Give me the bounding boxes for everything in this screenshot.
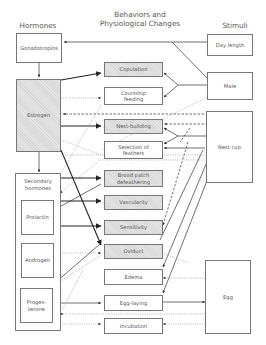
- node-male: Male: [207, 72, 253, 100]
- node-incubation: Incubation: [104, 318, 163, 334]
- node-progesterone: Proges-terone: [20, 288, 53, 323]
- node-estrogen: Estrogen: [16, 79, 61, 152]
- node-prolactin: Prolactin: [21, 200, 54, 235]
- node-courtship-feeding: Courtship feeding: [104, 87, 163, 105]
- node-nest-cup: Nest cup: [206, 111, 253, 183]
- secondary-hormones-label: Secondary hormones: [19, 178, 57, 191]
- node-oviduct: Oviduct: [104, 244, 163, 259]
- node-edema: Edema: [104, 269, 163, 285]
- node-nest-building: Nest-building: [104, 119, 163, 134]
- node-day-length: Day length: [207, 34, 253, 56]
- node-gonadotropins: Gonadotropins: [16, 33, 62, 63]
- node-sensitivity: Sensitivity: [104, 220, 163, 235]
- node-brood-patch-defeathering: Brood patch defeathering: [104, 170, 163, 187]
- node-egg: Egg: [205, 260, 251, 334]
- node-vascularity: Vascularity: [104, 195, 163, 210]
- node-copulation: Copulation: [104, 62, 163, 77]
- node-selection-of-feathers: Selection of feathers: [104, 141, 163, 159]
- node-egg-laying: Egg-laying: [104, 295, 163, 311]
- node-androgen: Androgen: [21, 243, 54, 278]
